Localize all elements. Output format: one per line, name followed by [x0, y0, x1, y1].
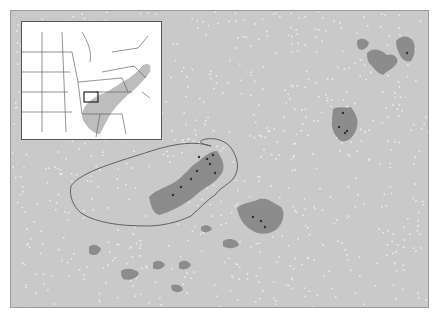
site-marker — [209, 163, 211, 165]
site-marker — [190, 178, 192, 180]
site-marker — [214, 172, 216, 174]
site-marker — [406, 52, 408, 54]
site-marker — [344, 132, 346, 134]
site-marker — [206, 158, 208, 160]
site-marker — [212, 154, 214, 156]
site-marker — [252, 216, 254, 218]
site-marker — [198, 156, 200, 158]
site-marker — [180, 186, 182, 188]
site-marker — [342, 112, 344, 114]
site-marker — [172, 194, 174, 196]
site-marker — [260, 220, 262, 222]
site-marker — [338, 126, 340, 128]
inset-locator-map — [21, 21, 162, 140]
inset-canvas — [22, 22, 162, 140]
site-marker — [196, 170, 198, 172]
site-marker — [264, 226, 266, 228]
map-panel — [10, 10, 429, 308]
site-marker — [346, 130, 348, 132]
